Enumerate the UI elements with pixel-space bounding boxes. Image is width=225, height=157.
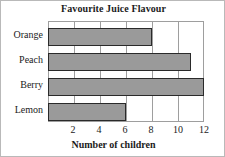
category-label-lemon: Lemon (15, 104, 43, 115)
chart-screenshot: Favourite Juice Flavour Orange Peach Ber… (0, 0, 225, 157)
chart-title: Favourite Juice Flavour (1, 3, 225, 14)
category-label-orange: Orange (14, 29, 43, 40)
xtick-4: 4 (89, 124, 109, 135)
bar-row (48, 74, 204, 99)
bar-berry (48, 78, 204, 96)
bar-orange (48, 28, 152, 46)
bar-lemon (48, 103, 126, 121)
category-label-peach: Peach (19, 54, 43, 65)
xtick-2: 2 (63, 124, 83, 135)
bar-row (48, 99, 126, 124)
xtick-12: 12 (194, 124, 214, 135)
category-label-berry: Berry (20, 79, 43, 90)
bar-row (48, 24, 152, 49)
x-axis-title: Number of children (1, 139, 225, 150)
xtick-6: 6 (115, 124, 135, 135)
xtick-8: 8 (141, 124, 161, 135)
bar-peach (48, 53, 191, 71)
bar-row (48, 49, 191, 74)
bars-layer (48, 21, 204, 122)
category-axis-labels: Orange Peach Berry Lemon (1, 21, 45, 122)
xtick-10: 10 (168, 124, 188, 135)
